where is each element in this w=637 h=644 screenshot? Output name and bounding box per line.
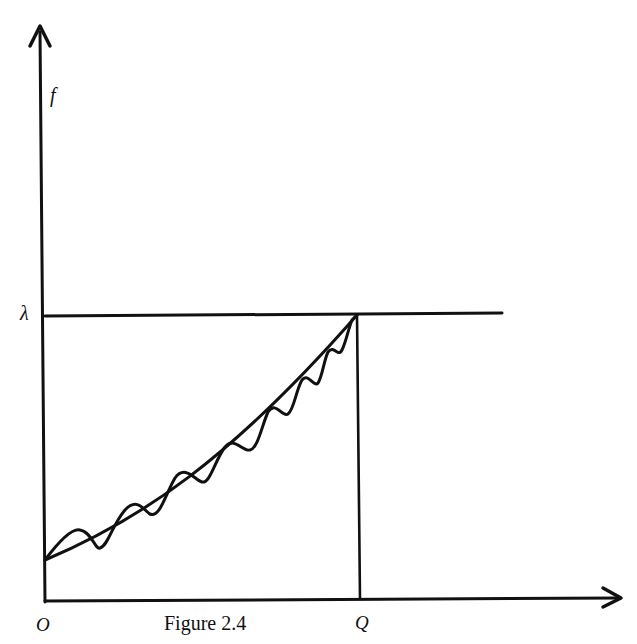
- origin-label: O: [36, 614, 50, 636]
- trend-line: [45, 315, 357, 560]
- q-label: Q: [355, 612, 369, 634]
- y-axis-label: f: [50, 84, 56, 107]
- lambda-line: [45, 313, 502, 316]
- figure-canvas: [0, 0, 637, 644]
- x-axis: [45, 598, 620, 601]
- lambda-label: λ: [20, 302, 29, 325]
- q-line: [357, 315, 360, 599]
- figure-caption: Figure 2.4: [164, 612, 246, 635]
- oscillating-curve: [45, 315, 357, 560]
